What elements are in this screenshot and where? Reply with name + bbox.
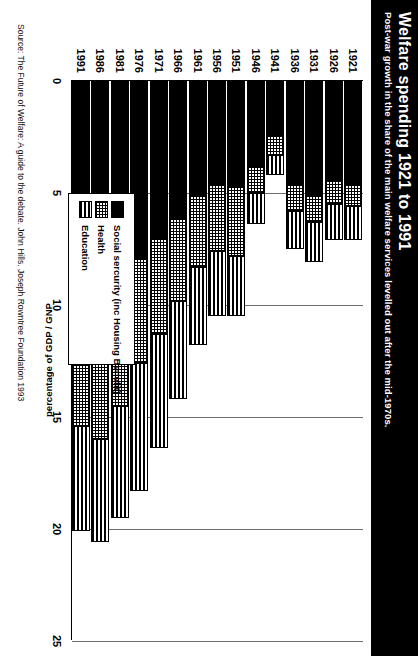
bar-row: 1936 xyxy=(284,81,306,640)
value-axis-title: percentage of GDP / GNP xyxy=(43,80,54,640)
bar-segment-education xyxy=(150,334,168,448)
bar-segment-education xyxy=(344,206,362,240)
chart-figure: Welfare spending 1921 to 1991 Post-war g… xyxy=(0,0,418,656)
solid-black-swatch xyxy=(111,201,124,218)
bar-segment-social-security xyxy=(189,81,207,195)
bar-segment-health xyxy=(325,180,343,205)
bar-row: 1956 xyxy=(206,81,228,640)
bar-row: 1966 xyxy=(167,81,189,640)
bar-segment-health xyxy=(247,166,265,193)
page-subtitle: Post-war growth in the share of the main… xyxy=(382,12,395,656)
bar-row: 1941 xyxy=(264,81,286,640)
category-tick-label: 1951 xyxy=(225,25,247,73)
source-note: Source: The Future of Welfare: A guide t… xyxy=(16,24,26,401)
category-tick-label: 1981 xyxy=(109,25,131,73)
bar-segment-education xyxy=(208,251,226,316)
category-tick-label: 1976 xyxy=(128,25,150,73)
category-tick-label: 1961 xyxy=(187,25,209,73)
bar-row: 1971 xyxy=(148,81,170,640)
bar-segment-social-security xyxy=(325,81,343,180)
bar-segment-education xyxy=(91,439,109,542)
bar-segment-health xyxy=(266,135,284,155)
bar-segment-health xyxy=(286,184,304,211)
bar-segment-health xyxy=(169,218,187,301)
bar-segment-health xyxy=(150,238,168,334)
rotated-figure-wrapper: Welfare spending 1921 to 1991 Post-war g… xyxy=(0,0,418,656)
bar-row: 1961 xyxy=(187,81,209,640)
bar-segment-social-security xyxy=(227,81,245,186)
bar-segment-education xyxy=(305,222,323,262)
bar-segment-social-security xyxy=(169,81,187,218)
bar-segment-health xyxy=(305,195,323,222)
legend-item: Education xyxy=(79,201,92,355)
bar-segment-education xyxy=(325,204,343,240)
bar-segment-health xyxy=(208,184,226,251)
category-tick-label: 1966 xyxy=(167,25,189,73)
category-tick-label: 1946 xyxy=(245,25,267,73)
bar-row: 1926 xyxy=(323,81,345,640)
bar-segment-social-security xyxy=(208,81,226,184)
bar-segment-social-security xyxy=(247,81,265,166)
bar-segment-education xyxy=(169,301,187,400)
bar-segment-health xyxy=(344,184,362,206)
bar-row: 1946 xyxy=(245,81,267,640)
category-tick-label: 1941 xyxy=(264,25,286,73)
gridline xyxy=(72,641,363,642)
bar-segment-education xyxy=(286,211,304,249)
bar-segment-education xyxy=(111,406,129,518)
bar-segment-health xyxy=(189,195,207,267)
category-tick-label: 1921 xyxy=(342,25,364,73)
legend-item-label: Social sercurity (inc Housing Benefit) xyxy=(112,225,123,394)
legend-item: Social sercurity (inc Housing Benefit) xyxy=(111,201,124,355)
bar-segment-education xyxy=(227,256,245,316)
horizontal-stripe-swatch xyxy=(79,201,92,218)
bar-segment-education xyxy=(130,363,148,491)
category-tick-label: 1956 xyxy=(206,25,228,73)
category-tick-label: 1991 xyxy=(70,25,92,73)
legend-item-label: Education xyxy=(80,225,91,271)
category-tick-label: 1926 xyxy=(323,25,345,73)
bar-segment-social-security xyxy=(286,81,304,184)
bar-segment-education xyxy=(72,426,90,531)
category-tick-label: 1971 xyxy=(148,25,170,73)
bar-row: 1951 xyxy=(225,81,247,640)
page-title: Welfare spending 1921 to 1991 xyxy=(395,12,414,656)
plot-canvas: 0510152025 19211926193119361941194619511… xyxy=(71,80,363,640)
category-tick-label: 1936 xyxy=(284,25,306,73)
bar-segment-education xyxy=(189,267,207,345)
category-tick-label: 1931 xyxy=(303,25,325,73)
legend-box: Social sercurity (inc Housing Benefit)He… xyxy=(68,193,135,365)
bar-row: 1931 xyxy=(303,81,325,640)
bar-segment-social-security xyxy=(305,81,323,195)
dotted-grey-swatch xyxy=(95,201,108,218)
legend-item-label: Health xyxy=(96,225,107,254)
bar-segment-health xyxy=(227,186,245,255)
category-tick-label: 1986 xyxy=(89,25,111,73)
bar-row: 1921 xyxy=(342,81,364,640)
legend-item: Health xyxy=(95,201,108,355)
plot-area: 0510152025 19211926193119361941194619511… xyxy=(45,22,363,640)
bar-segment-social-security xyxy=(344,81,362,184)
bar-segment-social-security xyxy=(266,81,284,135)
bar-segment-education xyxy=(266,155,284,175)
bar-segment-education xyxy=(247,193,265,224)
bar-segment-social-security xyxy=(150,81,168,238)
title-band: Welfare spending 1921 to 1991 Post-war g… xyxy=(371,0,418,656)
